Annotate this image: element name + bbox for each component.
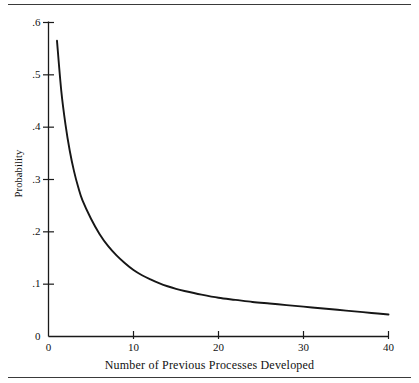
x-tick-label: 40 xyxy=(374,341,404,353)
plot-area xyxy=(0,0,419,383)
data-series-line xyxy=(57,41,389,315)
x-axis-title: Number of Previous Processes Developed xyxy=(0,358,419,373)
figure-frame: Probability Number of Previous Processes… xyxy=(0,0,419,383)
y-tick-label: .5 xyxy=(15,68,41,80)
y-tick-label: .4 xyxy=(15,120,41,132)
x-tick-label: 10 xyxy=(119,341,149,353)
x-tick-label: 20 xyxy=(204,341,234,353)
y-tick-label: .1 xyxy=(15,277,41,289)
y-tick-label: .2 xyxy=(15,225,41,237)
y-tick-label: .3 xyxy=(15,173,41,185)
y-tick-label: .6 xyxy=(15,16,41,28)
x-tick-label: 30 xyxy=(289,341,319,353)
probability-decay-line-chart xyxy=(0,0,419,383)
x-tick-label: 0 xyxy=(34,341,64,353)
